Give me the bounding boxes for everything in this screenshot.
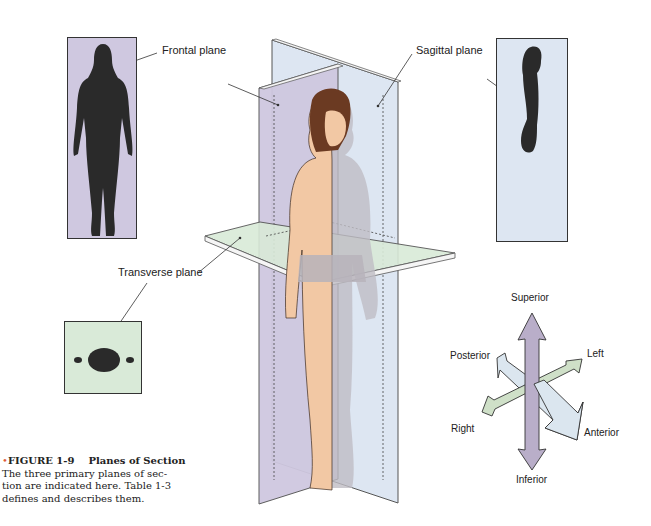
sagittal-silhouette-icon: [497, 39, 569, 243]
direction-inferior-label: Inferior: [516, 474, 547, 485]
sagittal-plane-label: Sagittal plane: [416, 44, 483, 56]
frontal-plane-inset: [67, 37, 137, 239]
caption-line-3: defines and describes them.: [2, 493, 192, 506]
direction-superior-label: Superior: [511, 292, 549, 303]
direction-left-label: Left: [587, 348, 604, 359]
transverse-plane-inset: [64, 321, 142, 394]
figure-number: FIGURE 1-9: [8, 455, 75, 466]
transverse-plane-label: Transverse plane: [118, 266, 203, 278]
direction-anterior-label: Anterior: [584, 427, 619, 438]
sagittal-plane-inset: [496, 38, 568, 242]
figure-caption: •FIGURE 1-9 Planes of Section The three …: [2, 455, 192, 505]
direction-posterior-label: Posterior: [450, 350, 490, 361]
frontal-silhouette-icon: [68, 38, 138, 240]
caption-heading: •FIGURE 1-9 Planes of Section: [2, 455, 192, 468]
caption-line-1: The three primary planes of sec-: [2, 468, 192, 481]
figure-title: Planes of Section: [88, 455, 185, 466]
transverse-silhouette-icon: [65, 322, 143, 395]
caption-line-2: tion are indicated here. Table 1-3: [2, 480, 192, 493]
direction-compass: [482, 313, 583, 470]
frontal-plane-label: Frontal plane: [162, 44, 226, 56]
direction-right-label: Right: [451, 423, 474, 434]
